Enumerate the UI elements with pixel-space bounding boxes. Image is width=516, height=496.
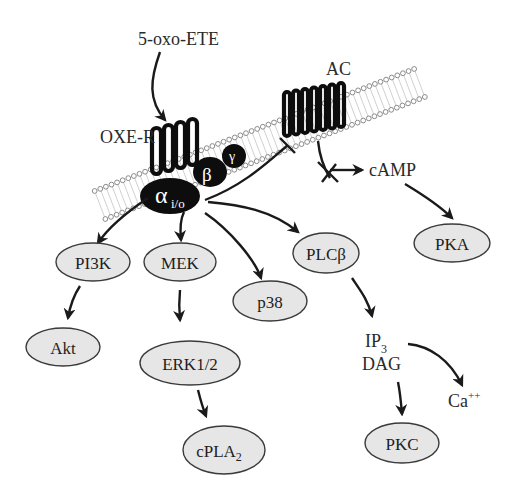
lipid-tail xyxy=(263,127,274,155)
ac-label: AC xyxy=(326,59,351,79)
lipid-tail xyxy=(386,80,397,108)
lipid-tail xyxy=(106,187,117,215)
lipid-head xyxy=(249,161,254,166)
lipid-head xyxy=(361,118,366,123)
node-pi3k-label: PI3K xyxy=(75,254,112,273)
oxe-receptor xyxy=(152,119,197,174)
g-alpha-subunit xyxy=(140,178,200,214)
lipid-tail xyxy=(123,180,134,208)
lipid-head xyxy=(327,131,332,136)
lipid-tail xyxy=(364,88,375,116)
node-mek-label: MEK xyxy=(161,254,200,273)
lipid-head xyxy=(126,176,131,181)
lipid-head xyxy=(395,73,400,78)
lipid-tail xyxy=(358,90,369,118)
lipid-head xyxy=(109,214,114,219)
node-erk: ERK1/2 xyxy=(140,341,240,385)
lipid-head xyxy=(372,82,377,87)
lipid-head xyxy=(350,122,355,127)
transmembrane-helix xyxy=(188,119,197,165)
lipid-tail xyxy=(100,189,111,217)
lipid-head xyxy=(221,139,226,144)
node-p38: p38 xyxy=(233,281,307,321)
node-akt-label: Akt xyxy=(50,339,76,358)
g-gamma-label: γ xyxy=(228,149,235,164)
lipid-head xyxy=(316,135,321,140)
node-plcb-label: PLCβ xyxy=(306,245,346,264)
node-mek: MEK xyxy=(144,243,216,281)
lipid-tail xyxy=(397,75,408,103)
lipid-head xyxy=(389,75,394,80)
transmembrane-helix xyxy=(302,89,308,133)
lipid-head xyxy=(417,97,422,102)
arrow-pi3k-to-akt xyxy=(68,286,80,318)
lipid-tail xyxy=(414,69,425,97)
lipid-head xyxy=(109,182,114,187)
g-beta-label: β xyxy=(202,164,212,185)
lipid-head xyxy=(131,174,136,179)
lipid-head xyxy=(98,186,103,191)
lipid-head xyxy=(103,184,108,189)
lipid-head xyxy=(114,212,119,217)
lipid-head xyxy=(232,135,237,140)
lipid-tail xyxy=(375,84,386,112)
arrow-camp-to-pka xyxy=(405,184,452,218)
lipid-tail xyxy=(409,71,420,99)
ligand-label: 5-oxo-ETE xyxy=(138,29,219,49)
lipid-head xyxy=(154,165,159,170)
signaling-diagram: α i/o β γ 5-oxo-ETE OXE-R AC cAMP PI3K M… xyxy=(0,0,516,496)
lipid-tail xyxy=(246,133,257,161)
lipid-head xyxy=(411,99,416,104)
lipid-tail xyxy=(95,191,106,219)
lipid-head xyxy=(143,169,148,174)
arrow-plcb-to-ip3 xyxy=(352,278,372,316)
lipid-head xyxy=(249,129,254,134)
lipid-head xyxy=(299,142,304,147)
node-plcb: PLCβ xyxy=(293,233,359,273)
lipid-head xyxy=(243,163,248,168)
lipid-head xyxy=(383,110,388,115)
dag-label: DAG xyxy=(362,354,401,374)
lipid-head xyxy=(244,131,249,136)
lipid-head xyxy=(294,144,299,149)
node-pkc-label: PKC xyxy=(385,435,418,454)
node-pi3k: PI3K xyxy=(56,243,130,281)
lipid-tail xyxy=(347,95,358,123)
lipid-head xyxy=(401,71,406,76)
node-pkc: PKC xyxy=(365,423,439,463)
camp-label: cAMP xyxy=(369,160,416,180)
lipid-head xyxy=(238,133,243,138)
lipid-head xyxy=(367,84,372,89)
lipid-head xyxy=(400,103,405,108)
lipid-tail xyxy=(128,178,139,206)
lipid-head xyxy=(232,167,237,172)
lipid-head xyxy=(389,107,394,112)
transmembrane-helix xyxy=(338,83,344,127)
lipid-head xyxy=(372,114,377,119)
lipid-head xyxy=(103,217,108,222)
lipid-head xyxy=(260,124,265,129)
lipid-tail xyxy=(252,131,263,159)
lipid-head xyxy=(210,144,215,149)
ip3-label: IP3 xyxy=(365,331,387,356)
lipid-head xyxy=(361,86,366,91)
lipid-head xyxy=(378,79,383,84)
calcium-label: Ca++ xyxy=(448,389,480,411)
arrow-ligand-to-receptor xyxy=(152,52,165,120)
lipid-tail xyxy=(381,82,392,110)
lipid-tail xyxy=(268,125,279,153)
lipid-head xyxy=(120,178,125,183)
lipid-head xyxy=(265,155,270,160)
lipid-tail xyxy=(403,73,414,101)
lipid-head xyxy=(204,146,209,151)
lipid-head xyxy=(254,159,259,164)
lipid-head xyxy=(137,171,142,176)
lipid-head xyxy=(310,137,315,142)
lipid-head xyxy=(92,189,97,194)
lipid-head xyxy=(350,90,355,95)
lipid-head xyxy=(260,157,265,162)
lipid-head xyxy=(355,120,360,125)
lipid-head xyxy=(115,180,120,185)
lipid-head xyxy=(227,137,232,142)
lipid-tail xyxy=(257,129,268,157)
